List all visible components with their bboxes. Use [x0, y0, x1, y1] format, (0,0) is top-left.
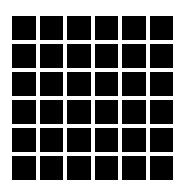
grid-cell	[122, 128, 146, 152]
grid-cell	[122, 72, 146, 96]
grid-cell	[95, 16, 119, 40]
grid-cell	[67, 100, 91, 124]
grid-cell	[95, 156, 119, 180]
square-grid	[12, 16, 173, 180]
grid-cell	[67, 128, 91, 152]
grid-cell	[67, 156, 91, 180]
grid-cell	[122, 100, 146, 124]
grid-cell	[150, 72, 174, 96]
grid-cell	[150, 100, 174, 124]
grid-cell	[122, 44, 146, 68]
grid-cell	[40, 16, 64, 40]
grid-cell	[150, 128, 174, 152]
grid-cell	[12, 44, 36, 68]
grid-cell	[95, 128, 119, 152]
grid-cell	[12, 156, 36, 180]
grid-cell	[122, 16, 146, 40]
grid-cell	[40, 128, 64, 152]
grid-cell	[40, 156, 64, 180]
grid-cell	[67, 16, 91, 40]
grid-cell	[95, 44, 119, 68]
grid-cell	[40, 100, 64, 124]
grid-cell	[122, 156, 146, 180]
grid-cell	[150, 44, 174, 68]
grid-cell	[67, 72, 91, 96]
grid-cell	[12, 128, 36, 152]
grid-cell	[150, 156, 174, 180]
grid-cell	[95, 72, 119, 96]
grid-cell	[40, 72, 64, 96]
grid-cell	[12, 16, 36, 40]
grid-cell	[67, 44, 91, 68]
grid-cell	[12, 100, 36, 124]
grid-cell	[95, 100, 119, 124]
grid-cell	[40, 44, 64, 68]
grid-cell	[12, 72, 36, 96]
grid-cell	[150, 16, 174, 40]
